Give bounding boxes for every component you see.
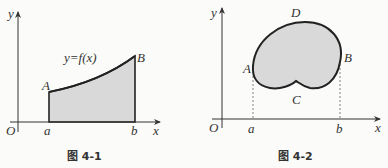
y-axis-label: y — [6, 6, 14, 21]
x-axis-label: x — [152, 123, 159, 138]
y-axis-label: y — [209, 5, 217, 20]
origin-label: O — [6, 123, 16, 138]
closed-region — [253, 22, 341, 88]
point-D: D — [290, 5, 301, 20]
tick-a: a — [248, 121, 255, 136]
x-axis-label: x — [374, 120, 381, 135]
tick-b: b — [131, 123, 138, 138]
point-B: B — [344, 50, 352, 65]
point-A: A — [242, 61, 251, 76]
point-B: B — [137, 50, 145, 65]
function-label: y=f(x) — [62, 50, 97, 65]
point-C: C — [292, 92, 301, 107]
point-A: A — [41, 78, 50, 93]
figure-4-1: y x O a b A B y=f(x) 图 4-1 — [6, 6, 160, 163]
caption: 图 4-1 — [67, 150, 102, 163]
origin-label: O — [209, 120, 219, 135]
tick-b: b — [336, 121, 343, 136]
tick-a: a — [44, 123, 51, 138]
figure-4-2: y x O a b A B C D 图 4-2 — [209, 5, 381, 163]
caption: 图 4-2 — [278, 150, 313, 163]
